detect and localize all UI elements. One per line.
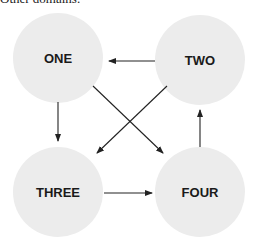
node-four-label: FOUR: [182, 185, 219, 200]
node-one: ONE: [13, 13, 103, 103]
node-two-label: TWO: [185, 53, 215, 68]
arrow-one-to-four: [93, 86, 163, 153]
arrow-two-to-three: [97, 86, 167, 153]
node-three: THREE: [13, 147, 103, 237]
node-four: FOUR: [155, 147, 245, 237]
node-three-label: THREE: [36, 185, 80, 200]
node-two: TWO: [155, 15, 245, 105]
node-one-label: ONE: [44, 51, 73, 66]
cycle-diagram: ONE TWO THREE FOUR: [0, 0, 259, 242]
